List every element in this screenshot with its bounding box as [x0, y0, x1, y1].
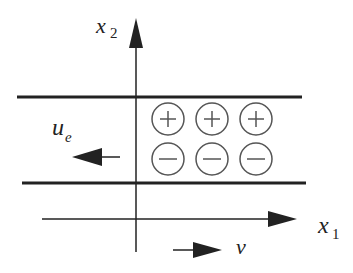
x2-axis	[129, 18, 143, 252]
velocity-arrow	[173, 242, 222, 258]
diagram-canvas: x 2 u e x 1 v	[0, 0, 353, 273]
positive-charges	[152, 103, 272, 135]
left-arrowhead-icon	[72, 148, 102, 166]
x2-label: x	[95, 13, 106, 38]
x2-arrowhead-icon	[129, 18, 143, 48]
x2-subscript: 2	[110, 25, 118, 41]
ue-subscript: e	[65, 129, 72, 145]
ue-label: u	[52, 114, 64, 140]
x1-arrowhead-icon	[268, 211, 297, 227]
right-arrowhead-icon	[193, 242, 222, 258]
x1-subscript: 1	[332, 226, 340, 242]
x1-label: x	[317, 212, 329, 238]
electron-velocity-arrow	[72, 148, 120, 166]
negative-charges	[152, 143, 272, 175]
v-label: v	[236, 234, 246, 259]
x1-axis	[42, 211, 297, 227]
